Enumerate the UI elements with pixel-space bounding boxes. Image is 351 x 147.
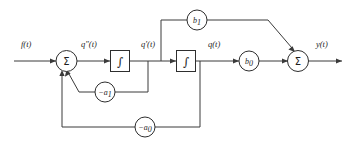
summer-output: Σ [288, 51, 309, 72]
arrowhead-integ1-in [104, 58, 110, 63]
block-diagram-svg: Σ Σ ∫ ∫ b1 b0 −a1 −a0 [0, 0, 351, 147]
gain-b1: b1 [187, 10, 207, 30]
gain-a1: −a1 [95, 82, 115, 102]
gain-a0: −a0 [135, 117, 155, 137]
arrowhead-output [336, 58, 342, 63]
integrator-1-label: ∫ [117, 55, 124, 69]
integrator-1: ∫ [111, 51, 130, 72]
summer-input-label: Σ [63, 56, 69, 67]
arrowhead-input-summer [50, 58, 56, 63]
block-diagram-canvas: Σ Σ ∫ ∫ b1 b0 −a1 −a0 [0, 0, 351, 147]
wire-a1-diagonal [69, 74, 79, 92]
signal-label-second-derivative: qʺ(t) [81, 39, 97, 49]
arrowhead-b0-in [233, 58, 239, 63]
integrator-2: ∫ [177, 51, 196, 72]
signal-label-output: y(t) [315, 39, 328, 49]
gain-b0: b0 [239, 51, 259, 71]
signal-label-first-derivative: qʹ(t) [141, 39, 155, 49]
summer-input: Σ [56, 51, 77, 72]
summer-output-label: Σ [295, 56, 301, 67]
signal-label-input: f(t) [21, 39, 32, 49]
integrator-2-label: ∫ [183, 55, 190, 69]
signal-label-state: q(t) [208, 39, 220, 49]
arrowhead-integ2-in [170, 58, 176, 63]
wire-b1-diagonal [268, 20, 292, 48]
